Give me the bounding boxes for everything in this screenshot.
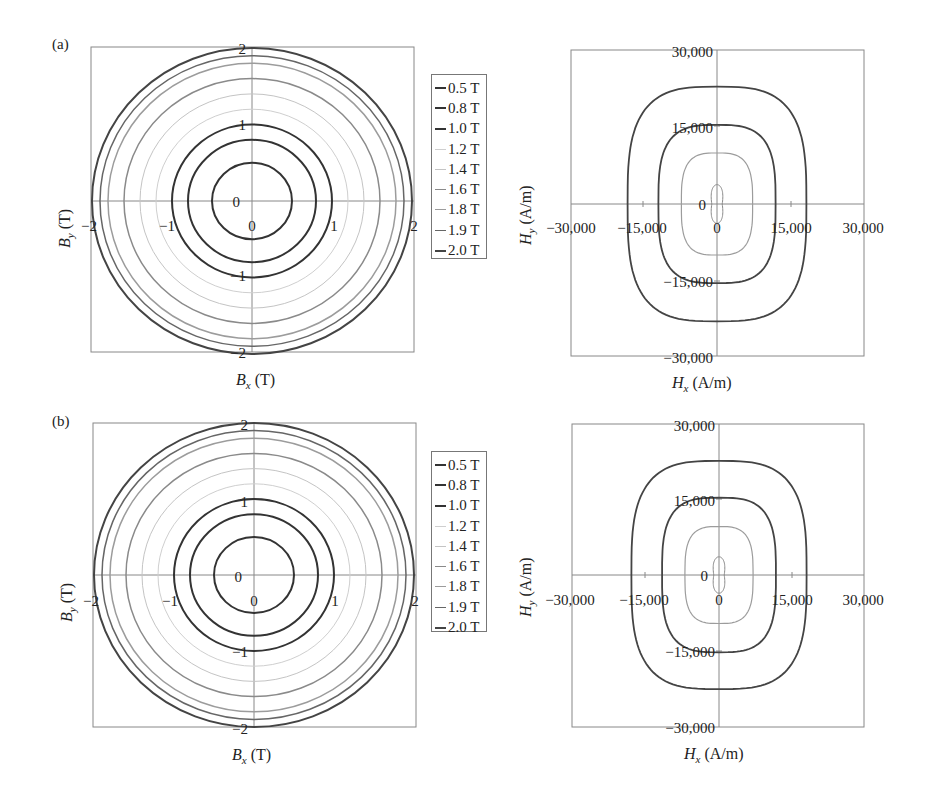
y-axis-label: By (T) [56, 209, 76, 248]
y-tick-neg1: −1 [230, 268, 246, 284]
x-axis-label: Bx (T) [236, 371, 275, 391]
x-tick-neg15000: −15,000 [617, 220, 667, 236]
y-tick-2: 2 [241, 417, 249, 433]
y-tick-15000: 15,000 [672, 120, 713, 136]
x-tick-0: 0 [713, 220, 721, 236]
x-axis-label: Hx (A/m) [683, 745, 744, 765]
x-tick-30000: 30,000 [842, 220, 883, 236]
y-axis-label: By (T) [58, 583, 78, 622]
y-tick-30000: 30,000 [672, 44, 713, 60]
x-tick-neg30000: −30,000 [546, 220, 596, 236]
x-tick-2: 2 [410, 218, 418, 234]
y-tick-neg15000: −15,000 [663, 274, 713, 290]
b-field-plot-b: 2 1 0 −1 −2 −2 −1 0 1 2 Bx (T) By (T) [58, 417, 419, 766]
x-tick-15000: 15,000 [770, 220, 811, 236]
x-tick-2: 2 [411, 593, 419, 609]
x-tick-1: 1 [331, 593, 339, 609]
x-tick-neg2: −2 [81, 218, 97, 234]
y-tick-0: 0 [699, 197, 707, 213]
y-tick-1: 1 [241, 494, 249, 510]
b-field-plot-a: 2 1 0 −1 −2 −2 −1 0 1 2 Bx (T) By (T) [56, 41, 418, 391]
figure: (a) (b) 0.5 T0.8 T1.0 T1.2 T1.4 T1.6 T1.… [0, 0, 928, 796]
x-tick-neg30000: −30,000 [545, 592, 595, 608]
y-tick-neg30000: −30,000 [663, 350, 713, 366]
y-tick-0: 0 [233, 194, 241, 210]
y-axis-label: Hy (A/m) [517, 557, 537, 618]
y-tick-neg1: −1 [232, 644, 248, 660]
x-tick-neg2: −2 [83, 593, 99, 609]
y-tick-neg30000: −30,000 [665, 720, 715, 736]
y-tick-0: 0 [701, 568, 709, 584]
y-tick-15000: 15,000 [674, 493, 715, 509]
x-tick-0: 0 [715, 592, 723, 608]
h-field-plot-b: 30,000 15,000 0 −15,000 −30,000 −30,000 … [517, 418, 884, 765]
x-tick-1: 1 [330, 218, 338, 234]
x-tick-0: 0 [248, 218, 256, 234]
x-tick-neg15000: −15,000 [619, 592, 669, 608]
y-tick-0: 0 [235, 569, 243, 585]
x-tick-0: 0 [250, 593, 258, 609]
h-field-plot-a: 30,000 15,000 0 −15,000 −30,000 −30,000 … [517, 44, 884, 394]
y-tick-30000: 30,000 [674, 418, 715, 434]
plots-canvas: 2 1 0 −1 −2 −2 −1 0 1 2 Bx (T) By (T) 30… [0, 0, 928, 796]
x-tick-30000: 30,000 [842, 592, 883, 608]
y-tick-neg15000: −15,000 [665, 644, 715, 660]
x-axis-label: Hx (A/m) [671, 374, 732, 394]
y-tick-neg2: −2 [230, 345, 246, 361]
x-tick-neg1: −1 [162, 593, 178, 609]
x-tick-15000: 15,000 [771, 592, 812, 608]
y-tick-1: 1 [239, 117, 247, 133]
x-axis-label: Bx (T) [232, 746, 271, 766]
y-tick-neg2: −2 [232, 721, 248, 737]
y-axis-label: Hy (A/m) [517, 185, 537, 246]
y-tick-2: 2 [239, 41, 247, 57]
x-tick-neg1: −1 [159, 218, 175, 234]
